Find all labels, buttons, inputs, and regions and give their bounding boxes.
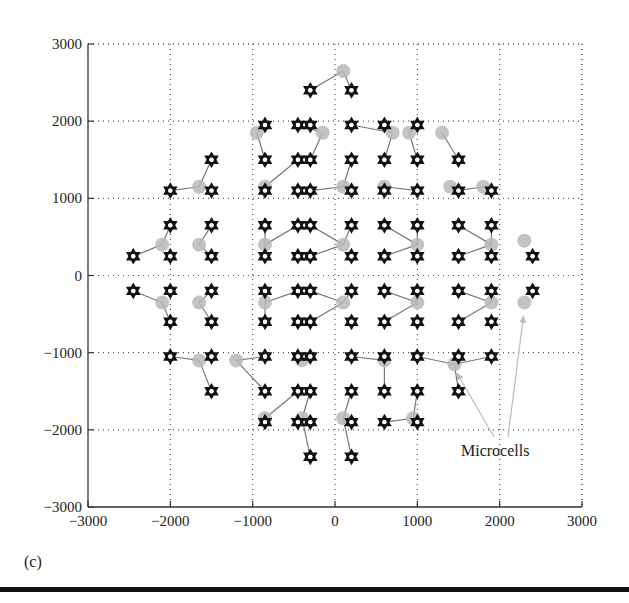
microcell-marker (192, 238, 206, 252)
base-station-icon (305, 250, 316, 262)
microcell-marker (155, 238, 169, 252)
microcell-marker (517, 296, 531, 310)
y-tick-label: 2000 (52, 113, 82, 129)
base-station-icon (305, 154, 316, 166)
base-station-icon (305, 285, 316, 297)
base-station-icon (379, 316, 390, 328)
base-station-icon (293, 250, 304, 262)
y-tick-label: −3000 (44, 499, 82, 515)
base-station-icon (486, 250, 497, 262)
base-station-icon (293, 219, 304, 231)
x-tick-label: 2000 (485, 513, 515, 529)
grid-lines (88, 44, 582, 507)
base-station-icon (206, 385, 217, 397)
base-station-icon (412, 285, 423, 297)
base-station-icon (346, 119, 357, 131)
base-station-icon (412, 316, 423, 328)
base-station-icon (293, 184, 304, 196)
base-station-icon (379, 250, 390, 262)
bottom-rule (0, 587, 629, 592)
base-station-icon (165, 184, 176, 196)
base-station-icon (379, 219, 390, 231)
base-station-icon (260, 250, 271, 262)
base-station-icon (305, 84, 316, 96)
base-station-icon (305, 316, 316, 328)
microcell-marker (336, 296, 350, 310)
microcell-marker (192, 353, 206, 367)
base-station-icon (346, 154, 357, 166)
base-station-icon (453, 316, 464, 328)
axes (88, 44, 582, 507)
base-station-icon (293, 285, 304, 297)
base-station-icon (346, 250, 357, 262)
base-station-icon (453, 285, 464, 297)
base-station-icon (346, 350, 357, 362)
microcell-marker (316, 126, 330, 140)
base-station-icon (165, 250, 176, 262)
base-station-icon (346, 385, 357, 397)
base-station-icon (346, 451, 357, 463)
y-tick-label: −2000 (44, 422, 82, 438)
base-station-icon (412, 385, 423, 397)
base-station-icon (453, 385, 464, 397)
base-station-icon (453, 219, 464, 231)
base-station-icon (206, 219, 217, 231)
base-station-icon (412, 154, 423, 166)
x-tick-label: 0 (331, 513, 339, 529)
x-tick-label: −3000 (69, 513, 107, 529)
x-tick-label: −1000 (233, 513, 271, 529)
base-station-icon (379, 285, 390, 297)
base-station-icon (453, 250, 464, 262)
base-station-icon (293, 119, 304, 131)
base-station-icon (305, 119, 316, 131)
base-station-icon (486, 316, 497, 328)
microcell-marker (155, 296, 169, 310)
microcell-marker (517, 234, 531, 248)
microcell-marker (435, 126, 449, 140)
base-station-icon (260, 154, 271, 166)
base-station-icon (165, 316, 176, 328)
panel-label: (c) (24, 553, 42, 571)
base-station-icon (206, 154, 217, 166)
base-station-icon (260, 285, 271, 297)
base-station-icon (486, 285, 497, 297)
microcell-marker (336, 64, 350, 78)
base-station-icon (412, 219, 423, 231)
base-station-icon (527, 250, 538, 262)
base-station-icon (206, 184, 217, 196)
base-station-icon (346, 316, 357, 328)
base-station-icon (379, 154, 390, 166)
base-station-icon (305, 385, 316, 397)
base-station-icon (527, 285, 538, 297)
microcell-marker (192, 180, 206, 194)
base-station-icon (293, 385, 304, 397)
base-station-icon (128, 250, 139, 262)
y-tick-label: 3000 (52, 36, 82, 52)
base-station-icon (486, 350, 497, 362)
y-tick-label: −1000 (44, 345, 82, 361)
base-station-icon (346, 84, 357, 96)
y-tick-label: 0 (75, 268, 83, 284)
x-tick-label: 3000 (567, 513, 597, 529)
base-station-icon (165, 219, 176, 231)
base-station-icon (165, 285, 176, 297)
annotation-label: Microcells (461, 442, 529, 459)
base-station-icon (260, 219, 271, 231)
x-tick-label: 1000 (402, 513, 432, 529)
microcell-marker (336, 238, 350, 252)
base-station-icon (305, 219, 316, 231)
base-station-icon (260, 316, 271, 328)
base-station-icon (293, 154, 304, 166)
annotation-arrow (457, 373, 494, 437)
base-station-icon (412, 184, 423, 196)
base-station-icon (453, 154, 464, 166)
y-tick-label: 1000 (52, 190, 82, 206)
base-station-icon (206, 350, 217, 362)
microcell-marker (192, 296, 206, 310)
annotation-arrow (508, 316, 524, 437)
base-station-icon (412, 250, 423, 262)
microcell-markers (155, 64, 531, 425)
base-station-icon (379, 385, 390, 397)
base-station-icon (293, 316, 304, 328)
base-station-icon (165, 350, 176, 362)
